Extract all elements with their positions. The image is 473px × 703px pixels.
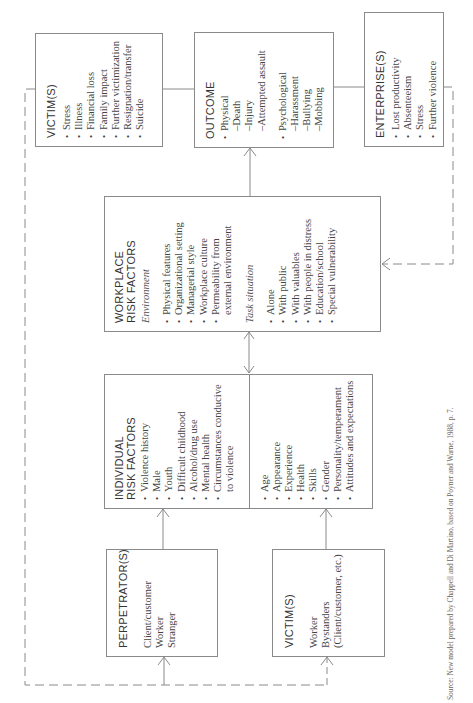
list-item: (Client/customer, etc.) <box>332 556 344 648</box>
list-item: Financial loss <box>85 40 97 138</box>
list-item: Difficult childhood <box>176 381 188 500</box>
list-item: Health <box>295 381 307 500</box>
list-item: Injury <box>243 39 255 139</box>
list-item: Further violence <box>427 19 439 138</box>
victims-outcome-title: VICTIM(S) <box>45 40 57 138</box>
individual-title-line1: INDIVIDUAL <box>113 381 125 500</box>
list-item: With valuables <box>290 203 302 323</box>
list-item: Client/customer <box>142 556 154 648</box>
list-item: Suicide <box>134 40 146 138</box>
enterprise-box: ENTERPRISE(S) Lost productivity Absentee… <box>364 12 444 147</box>
list-item: Alcohol/drug use <box>188 381 200 500</box>
list-item: Organizational setting <box>173 203 185 323</box>
list-item: Mobbing <box>313 39 325 139</box>
list-item: Workplace culture <box>198 203 210 323</box>
outcome-physical: Physical <box>219 39 231 139</box>
list-item: Stress <box>61 40 73 138</box>
list-item: Gender <box>320 381 332 500</box>
list-item-continuation: external environment <box>222 203 234 323</box>
perpetrators-box: PERPETRATOR(S) Client/customer Worker St… <box>106 549 218 657</box>
list-item: Lost productivity <box>390 19 402 138</box>
list-item: Harassment <box>289 39 301 139</box>
workplace-title-line1: WORKPLACE <box>113 203 125 323</box>
source-note-wrapper: Source: New model prepared by Chappell a… <box>446 320 460 700</box>
enterprise-title: ENTERPRISE(S) <box>374 19 386 138</box>
list-item: Bystanders <box>320 556 332 648</box>
workplace-title-line2: RISK FACTORS <box>125 203 137 323</box>
list-item: Stranger <box>166 556 178 648</box>
list-item: Appearance <box>271 381 283 500</box>
individual-title-line2: RISK FACTORS <box>125 381 137 500</box>
list-item: Attempted assault <box>256 39 268 139</box>
list-item: Illness <box>73 40 85 138</box>
list-item: Skills <box>307 381 319 500</box>
individual-risk-factors-box: INDIVIDUAL RISK FACTORS Violence history… <box>104 374 373 509</box>
outcome-psychological: Psychological <box>277 39 289 139</box>
list-item: Death <box>231 39 243 139</box>
list-item: Special vulnerability <box>326 203 338 323</box>
victims-input-box: VICTIM(S) Worker Bystanders (Client/cust… <box>272 549 385 657</box>
list-item: With public <box>277 203 289 323</box>
list-item: Age <box>259 381 271 500</box>
victims-outcome-box: VICTIM(S) Stress Illness Financial loss … <box>35 33 163 147</box>
list-item: Absenteeism <box>402 19 414 138</box>
environment-label: Environment <box>140 203 152 323</box>
list-item: Personality/temperament <box>332 381 344 500</box>
source-note: Source: New model prepared by Chappell a… <box>446 320 460 700</box>
list-item: With people in distress <box>302 203 314 323</box>
list-item: Further victimization <box>110 40 122 138</box>
task-situation-label: Task situation <box>244 203 256 323</box>
list-item: Bullying <box>301 39 313 139</box>
list-item: Worker <box>308 556 320 648</box>
list-item: Youth <box>163 381 175 500</box>
list-item: Experience <box>283 381 295 500</box>
outcome-box: OUTCOME Physical Death Injury Attempted … <box>194 32 334 148</box>
list-item: Circumstances conducive <box>212 381 224 500</box>
list-item: Education/school <box>314 203 326 323</box>
list-item: Resignation/transfer <box>122 40 134 138</box>
list-item: Family impact <box>98 40 110 138</box>
list-item: Managerial style <box>185 203 197 323</box>
list-item: Attitudes and expectations <box>344 381 356 500</box>
list-item: Alone <box>265 203 277 323</box>
workplace-risk-factors-box: WORKPLACE RISK FACTORS Environment Physi… <box>104 196 381 332</box>
list-item: Violence history <box>139 381 151 500</box>
list-item: Mental health <box>200 381 212 500</box>
victims-input-title: VICTIM(S) <box>283 556 295 648</box>
list-item-continuation: to violence <box>224 381 236 500</box>
list-item: Male <box>151 381 163 500</box>
list-item: Permeability from <box>210 203 222 323</box>
outcome-title: OUTCOME <box>204 39 216 139</box>
list-item: Physical features <box>161 203 173 323</box>
list-item: Stress <box>414 19 426 138</box>
perpetrators-title: PERPETRATOR(S) <box>117 556 129 648</box>
list-item: Worker <box>154 556 166 648</box>
